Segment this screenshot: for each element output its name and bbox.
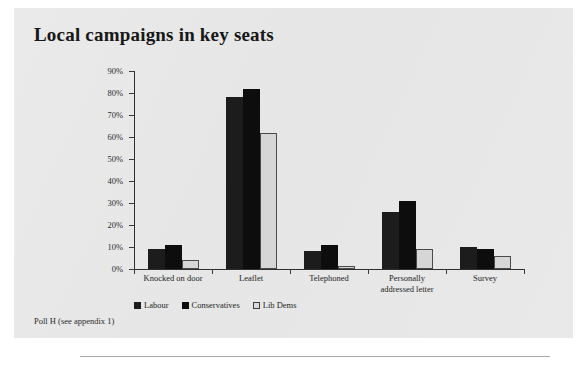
page-title: Local campaigns in key seats — [34, 24, 274, 46]
bar-lib-dems[interactable] — [338, 266, 355, 269]
legend-item[interactable]: Labour — [134, 300, 169, 310]
x-axis-tick — [134, 269, 135, 274]
bar-lib-dems[interactable] — [494, 256, 511, 269]
x-axis-tick — [290, 269, 291, 274]
bar-group: Personallyaddressed letter — [368, 71, 446, 269]
legend-item-label: Conservatives — [192, 300, 240, 310]
x-axis-tick — [446, 269, 447, 274]
bar-lib-dems[interactable] — [182, 260, 199, 269]
y-axis-tick-label: 50% — [107, 154, 123, 165]
x-axis-category-label: Knocked on door — [143, 273, 202, 284]
bar-group: Knocked on door — [134, 71, 212, 269]
y-axis-tick-label: 20% — [107, 220, 123, 231]
bar-group: Leaflet — [212, 71, 290, 269]
bar-labour[interactable] — [226, 97, 243, 269]
x-axis-category-label: Personallyaddressed letter — [380, 273, 433, 294]
x-axis-category-label: Leaflet — [239, 273, 263, 284]
y-axis-tick-label: 70% — [107, 110, 123, 121]
chart-legend: LabourConservativesLib Dems — [134, 300, 296, 310]
legend-item[interactable]: Conservatives — [182, 300, 240, 310]
y-axis-tick-label: 60% — [107, 132, 123, 143]
y-axis-tick-label: 80% — [107, 88, 123, 99]
x-axis-tick — [212, 269, 213, 274]
bar-conservatives[interactable] — [399, 201, 416, 269]
y-axis-tick-label: 40% — [107, 176, 123, 187]
bar-group-bars — [134, 71, 212, 269]
bar-lib-dems[interactable] — [260, 133, 277, 269]
page-divider-rule — [80, 356, 550, 357]
bar-conservatives[interactable] — [477, 249, 494, 269]
legend-swatch-icon — [182, 302, 189, 309]
bar-conservatives[interactable] — [243, 89, 260, 269]
x-axis-line — [134, 269, 524, 270]
legend-item[interactable]: Lib Dems — [253, 300, 297, 310]
x-axis-tick — [368, 269, 369, 274]
x-axis-tick — [524, 269, 525, 274]
bar-group-bars — [368, 71, 446, 269]
legend-item-label: Labour — [144, 300, 169, 310]
legend-swatch-icon — [134, 302, 141, 309]
source-footnote: Poll H (see appendix 1) — [34, 316, 114, 326]
bar-lib-dems[interactable] — [416, 249, 433, 269]
legend-item-label: Lib Dems — [263, 300, 297, 310]
bar-conservatives[interactable] — [321, 245, 338, 269]
document-page: Local campaigns in key seats 90%80%70%60… — [14, 8, 573, 338]
bar-group-bars — [446, 71, 524, 269]
x-axis-category-label: Telephoned — [309, 273, 349, 284]
bar-group: Telephoned — [290, 71, 368, 269]
bar-group-bars — [212, 71, 290, 269]
bar-labour[interactable] — [148, 249, 165, 269]
y-axis-tick-label: 90% — [107, 66, 123, 77]
bar-labour[interactable] — [304, 251, 321, 269]
y-axis-tick-label: 0% — [112, 264, 123, 275]
chart-plot-area: 90%80%70%60%50%40%30%20%10%0% Knocked on… — [134, 71, 524, 269]
legend-swatch-icon — [253, 302, 260, 309]
bar-labour[interactable] — [460, 247, 477, 269]
x-axis-category-label: Survey — [473, 273, 497, 284]
bar-conservatives[interactable] — [165, 245, 182, 269]
bar-labour[interactable] — [382, 212, 399, 269]
y-axis-tick-label: 30% — [107, 198, 123, 209]
bar-group: Survey — [446, 71, 524, 269]
y-axis-tick-label: 10% — [107, 242, 123, 253]
bar-group-bars — [290, 71, 368, 269]
